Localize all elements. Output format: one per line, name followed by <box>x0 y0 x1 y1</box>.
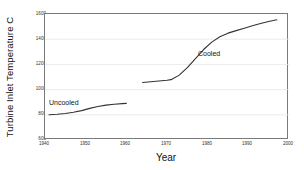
chart-figure: Turbine Inlet Temperature C 1600 1400 12… <box>0 0 304 170</box>
x-tick-label-1990: 1990 <box>232 141 262 147</box>
y-tick-label-1600: 1600 <box>24 11 46 16</box>
x-tick-label-1950: 1950 <box>70 141 100 147</box>
plot-area <box>44 13 288 139</box>
annotation-cooled: Cooled <box>198 50 220 57</box>
y-tick-label-1200: 1200 <box>24 61 46 66</box>
x-tick-label-2000: 2000 <box>273 141 303 147</box>
y-tick-label-1400: 1400 <box>24 36 46 41</box>
x-tick-label-1970: 1970 <box>151 141 181 147</box>
y-tick-label-800: 800 <box>24 111 46 116</box>
x-tick-label-1940: 1940 <box>29 141 59 147</box>
plot-canvas <box>45 14 289 140</box>
x-tick-label-1980: 1980 <box>192 141 222 147</box>
x-axis-title: Year <box>44 152 288 163</box>
y-tick-label-1000: 1000 <box>24 86 46 91</box>
annotation-uncooled: Uncooled <box>49 99 79 106</box>
y-axis-title: Turbine Inlet Temperature C <box>2 2 18 152</box>
gridlines <box>45 39 289 115</box>
x-tick-label-1960: 1960 <box>110 141 140 147</box>
